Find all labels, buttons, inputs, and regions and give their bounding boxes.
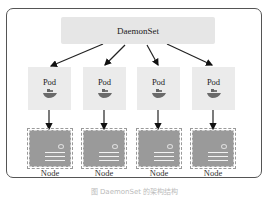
docker-whale-icon: [42, 89, 58, 98]
node-label: Node: [29, 168, 71, 178]
figure-caption: 图 DaemonSet 的架构结构: [0, 186, 269, 196]
node-server-4: [192, 130, 234, 167]
server-slot: [208, 160, 228, 161]
server-slot: [154, 152, 174, 153]
pod-label: Pod: [43, 77, 56, 87]
server-slot: [154, 160, 174, 161]
pod-label: Pod: [207, 77, 220, 87]
server-slot: [208, 152, 228, 153]
server-slot: [99, 160, 119, 161]
pod-label: Pod: [98, 77, 111, 87]
daemonset-label: DaemonSet: [117, 26, 159, 36]
server-led-icon: [58, 144, 64, 149]
daemonset-box: DaemonSet: [61, 17, 215, 44]
pod-box-2: Pod: [83, 67, 126, 110]
server-slot: [45, 156, 65, 157]
server-led-icon: [167, 144, 173, 149]
server-slot: [99, 156, 119, 157]
server-led-icon: [112, 144, 118, 149]
docker-whale-icon: [206, 89, 222, 98]
node-label: Node: [192, 168, 234, 178]
server-slot: [45, 152, 65, 153]
pod-box-4: Pod: [192, 67, 235, 110]
server-slot: [45, 160, 65, 161]
docker-whale-icon: [97, 89, 113, 98]
node-server-2: [83, 130, 125, 167]
server-slot: [154, 156, 174, 157]
node-server-3: [138, 130, 180, 167]
pod-box-3: Pod: [137, 67, 180, 110]
pod-label: Pod: [152, 77, 165, 87]
node-label: Node: [138, 168, 180, 178]
pod-box-1: Pod: [28, 67, 71, 110]
server-led-icon: [221, 144, 227, 149]
server-slot: [99, 152, 119, 153]
server-slot: [208, 156, 228, 157]
node-label: Node: [83, 168, 125, 178]
docker-whale-icon: [151, 89, 167, 98]
node-server-1: [29, 130, 71, 167]
